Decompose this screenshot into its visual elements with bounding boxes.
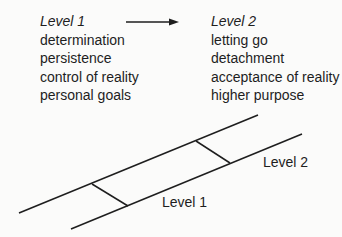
arrow-right-icon [126,19,179,26]
rung-2 [196,141,230,163]
lower-rail [71,134,302,229]
rung-1 [92,184,128,206]
level2-rail-label: Level 2 [263,154,308,170]
upper-rail [19,115,258,213]
level1-rail-label: Level 1 [162,194,207,210]
